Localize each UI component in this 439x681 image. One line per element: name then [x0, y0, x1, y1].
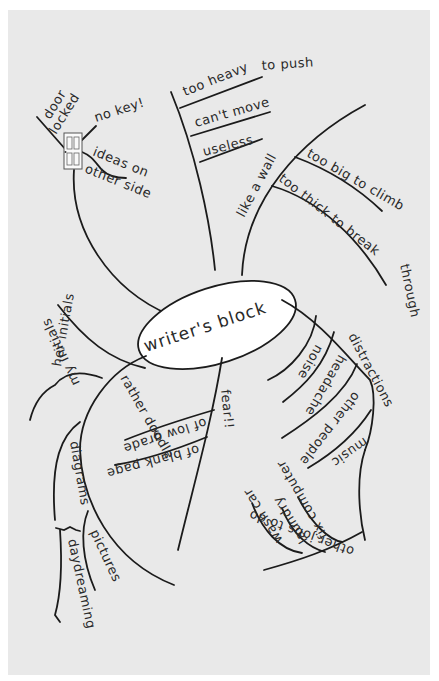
mind-map-canvas: door locked no key! ideas on other side …	[0, 0, 439, 681]
label-too-heavy: too heavy	[181, 59, 251, 99]
branch-line	[82, 126, 96, 140]
door-icon	[64, 133, 82, 169]
label-fear: fear!!	[218, 389, 237, 430]
branch-other-jobs: other jobs to do wash car laundry fix co…	[240, 450, 365, 570]
label-to-push: to push	[261, 54, 314, 73]
label-useless: useless	[201, 132, 255, 159]
label-no-key: no key!	[92, 95, 146, 125]
branch-line	[359, 450, 365, 540]
branch-line	[55, 530, 61, 622]
label-through: through	[397, 263, 423, 320]
label-diagrams: diagrams	[67, 440, 93, 506]
center-node: writer's block	[127, 264, 306, 387]
branch-line	[74, 170, 170, 315]
branch-heavy: too heavy to push can't move useless	[171, 54, 314, 270]
label-daydreaming: daydreaming	[65, 538, 99, 631]
branch-door-locked: door locked no key! ideas on other side	[37, 87, 170, 315]
label-pictures: pictures	[87, 527, 124, 584]
